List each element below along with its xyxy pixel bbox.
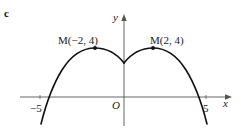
y-axis-label: y (112, 11, 118, 23)
y-axis-arrow-icon (121, 14, 126, 21)
x-tick-neg5: −5 (30, 95, 42, 114)
point-label-M-left: M(−2, 4) (58, 34, 98, 47)
graph-figure: c x y O −5 5 M(−2, 4) M(2, 4) (0, 0, 241, 140)
origin-label: O (112, 99, 120, 111)
curve-left-branch (41, 48, 124, 124)
part-label: c (4, 7, 9, 19)
x-axis-label: x (222, 97, 228, 109)
x-tick-label-neg5: −5 (30, 102, 42, 114)
point-marker (93, 46, 97, 50)
curve-right-branch (124, 48, 207, 124)
point-label-M-right: M(2, 4) (150, 34, 184, 47)
point-marker (151, 46, 155, 50)
